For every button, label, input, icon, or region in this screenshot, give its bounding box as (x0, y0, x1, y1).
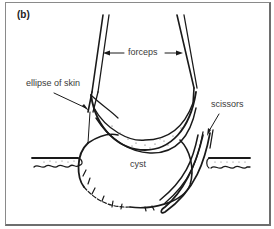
ellipse-of-skin-label: ellipse of skin (26, 79, 80, 88)
forceps-right-arrowhead (176, 51, 183, 56)
forceps-right-arm (177, 15, 197, 104)
forceps-label: forceps (128, 48, 158, 57)
scissors-label-leader (209, 114, 219, 131)
right-skin-surface (207, 158, 250, 168)
skin-edge-line (88, 112, 90, 143)
cyst-label: cyst (130, 160, 146, 169)
left-skin-stipple (43, 160, 74, 162)
panel-label: (b) (17, 10, 30, 20)
left-skin-surface (32, 158, 82, 167)
right-skin-stipple (214, 161, 245, 162)
ellipse-label-leader (54, 93, 86, 108)
cyst-underside-strands (83, 170, 154, 211)
scissors-label: scissors (211, 100, 244, 109)
ellipse-of-skin (91, 92, 196, 153)
surgical-diagram (0, 0, 274, 229)
